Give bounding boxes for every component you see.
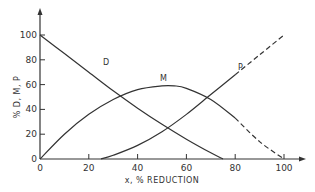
x-tick-label: 60 [181,163,193,173]
y-tick-label: 60 [26,80,38,90]
x-tick-label: 80 [229,163,241,173]
x-axis-label: x, % REDUCTION [125,176,200,185]
curve-p [101,75,235,159]
x-tick-label: 100 [275,163,292,173]
curve-m [40,85,235,159]
y-axis-label: % D, M, P [13,76,22,119]
x-tick-label: 40 [132,163,144,173]
curve-m-extrapolated [235,118,284,159]
curve-d [40,35,223,159]
curve-label-m: M [160,74,167,83]
y-axis-arrow-icon [38,8,43,15]
y-tick-label: 40 [26,104,38,114]
x-axis-arrow-icon [299,157,306,162]
curve-label-p: P [238,63,243,72]
curve-label-d: D [103,58,110,67]
y-tick-label: 100 [20,30,37,40]
chart: 020406080100 020406080100 % D, M, P x, %… [0,0,315,192]
y-tick-label: 20 [26,129,38,139]
x-tick-label: 0 [37,163,43,173]
x-tick-label: 20 [83,163,95,173]
y-tick-label: 80 [26,55,38,65]
x-ticks: 020406080100 [37,154,293,173]
y-ticks: 020406080100 [20,30,45,164]
plot-area [40,35,284,159]
